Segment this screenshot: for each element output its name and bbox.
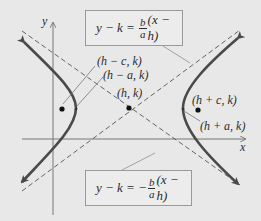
vertex-right-label: (h + a, k) <box>200 119 245 133</box>
vertex-left-leader <box>77 77 103 106</box>
fraction-denominator: a <box>140 29 146 40</box>
top-box-leader <box>163 46 190 63</box>
fraction-numerator: b <box>148 177 156 189</box>
vertex-right-point <box>182 108 185 111</box>
vertex-left-label: (h − a, k) <box>103 68 148 82</box>
equation-rhs: (x − h) <box>156 172 191 204</box>
focus-left-leader <box>63 66 95 104</box>
hyperbola-diagram: y x (h − c, k) (h − a, k) (h, k) (h + c,… <box>0 0 261 221</box>
hyperbola-right-branch <box>183 38 238 184</box>
asymptote-negative-equation-box: y − k = − b a (x − h) <box>85 170 192 206</box>
equation-rhs: (x − h) <box>148 12 182 44</box>
fraction-denominator: a <box>149 189 155 200</box>
focus-right-point <box>195 107 200 112</box>
fraction-numerator: b <box>139 17 147 29</box>
hyperbola-left-branch <box>22 42 76 182</box>
equation-lhs: y − k = <box>96 20 138 36</box>
equation-lhs: y − k = <box>96 180 138 196</box>
center-point <box>126 105 131 110</box>
center-label: (h, k) <box>117 86 142 100</box>
x-axis-label: x <box>239 140 246 154</box>
equation-sign: − <box>138 180 147 196</box>
y-axis-label: y <box>41 14 48 28</box>
vertex-left-point <box>75 108 78 111</box>
bottom-box-leader <box>122 153 155 170</box>
focus-left-point <box>59 106 64 111</box>
fraction-b-over-a: b a <box>139 17 147 40</box>
fraction-b-over-a: b a <box>148 177 156 200</box>
focus-right-label: (h + c, k) <box>192 93 237 107</box>
asymptote-positive-equation-box: y − k = b a (x − h) <box>85 10 183 46</box>
focus-left-label: (h − c, k) <box>97 54 142 68</box>
